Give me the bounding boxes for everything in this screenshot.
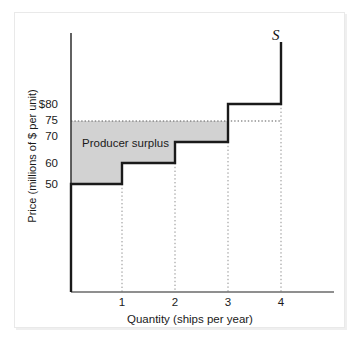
x-tick-label-4: 4 — [269, 296, 293, 308]
x-axis-title: Quantity (ships per year) — [60, 313, 320, 325]
producer-surplus-label: Producer surplus — [82, 137, 169, 149]
y-axis-title: Price (millions of $ per unit) — [26, 66, 38, 246]
supply-curve-label: S — [272, 27, 280, 44]
figure-container: $80 75 70 60 50 1 2 3 4 Price (millions … — [0, 0, 361, 345]
x-tick-label-2: 2 — [163, 296, 187, 308]
chart-svg — [0, 0, 361, 345]
x-tick-label-3: 3 — [216, 296, 240, 308]
x-tick-label-1: 1 — [110, 296, 134, 308]
producer-surplus-region — [71, 121, 228, 184]
